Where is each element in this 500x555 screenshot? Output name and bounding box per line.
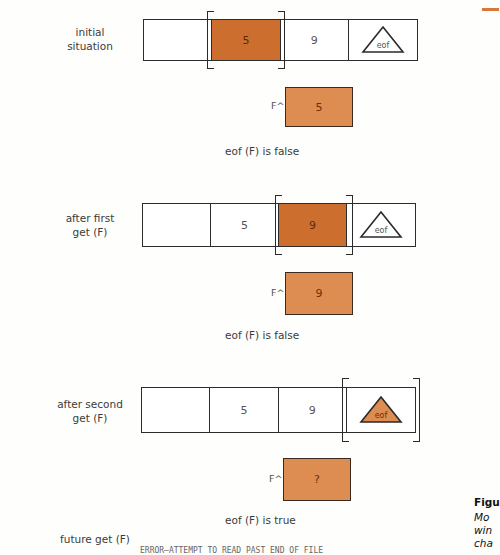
tape-cell-eof-window: eof: [347, 388, 415, 432]
file-tape: 5 9 eof: [141, 387, 416, 433]
figure-caption-line: cha: [474, 537, 493, 550]
tape-cell: [144, 20, 212, 60]
svg-text:eof: eof: [375, 226, 388, 235]
tape-cell: 9: [279, 388, 347, 432]
tape-cell-window: 5: [212, 20, 280, 60]
eof-status: eof (F) is false: [225, 329, 299, 341]
buffer-pointer-label: F^: [271, 287, 284, 298]
tape-cell-window: 9: [279, 204, 347, 246]
eof-status: eof (F) is true: [225, 514, 296, 526]
error-message: ERROR—ATTEMPT TO READ PAST END OF FILE: [140, 546, 323, 555]
svg-text:eof: eof: [377, 41, 390, 50]
panel-label: after first get (F): [50, 211, 130, 239]
tape-cell: 5: [210, 388, 278, 432]
eof-triangle-icon: eof: [360, 24, 406, 56]
file-tape: 5 9 eof: [142, 203, 416, 247]
buffer-pointer-label: F^: [271, 100, 284, 111]
tape-cell: 9: [281, 20, 349, 60]
svg-text:eof: eof: [375, 411, 388, 420]
buffer-variable-box: 5: [285, 87, 353, 127]
panel-label: initial situation: [50, 25, 130, 53]
figure-caption-line: Mo: [474, 511, 489, 524]
tape-cell: [143, 204, 211, 246]
buffer-variable-box: 9: [285, 272, 353, 315]
figure-caption-line: win: [474, 524, 492, 537]
eof-triangle-filled-icon: eof: [358, 394, 404, 426]
footer-label: future get (F): [55, 532, 135, 546]
buffer-pointer-label: F^: [269, 473, 282, 484]
tape-cell: [142, 388, 210, 432]
eof-status: eof (F) is false: [225, 145, 299, 157]
panel-label: after second get (F): [45, 397, 135, 425]
tape-cell-eof: eof: [347, 204, 415, 246]
accent-bar: [482, 8, 499, 11]
buffer-variable-box: ?: [283, 458, 351, 501]
tape-cell: 5: [211, 204, 279, 246]
eof-triangle-icon: eof: [358, 209, 404, 241]
tape-cell-eof: eof: [349, 20, 417, 60]
figure-caption-title: Figu: [474, 496, 500, 509]
file-tape: 5 9 eof: [143, 19, 418, 61]
